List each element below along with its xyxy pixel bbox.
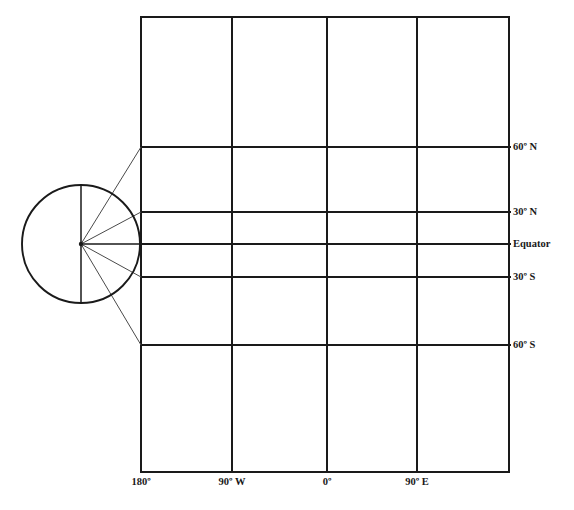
longitude-label-lon-0: 0º: [323, 476, 332, 487]
longitude-label-lon-180: 180º: [131, 476, 151, 487]
latitude-label-lat-0: Equator: [513, 238, 551, 249]
projection-rays-group: [81, 147, 141, 345]
projection-ray-60n: [81, 147, 141, 244]
longitude-label-lon-90w: 90º W: [219, 476, 246, 487]
latitude-label-lat-30n: 30º N: [513, 206, 538, 217]
latitude-label-lat-60n: 60º N: [513, 141, 538, 152]
latitude-label-lat-30s: 30º S: [513, 271, 536, 282]
globe-center-point: [79, 242, 83, 246]
latitude-label-lat-60s: 60º S: [513, 339, 536, 350]
projection-ray-30n: [81, 212, 141, 244]
mercator-projection-diagram: 60º N30º NEquator30º S60º S 180º90º W0º9…: [0, 0, 574, 510]
graticule: [141, 17, 511, 472]
latitude-lines-group: [141, 147, 511, 345]
longitude-labels-group: 180º90º W0º90º E: [131, 476, 428, 487]
longitude-label-lon-90e: 90º E: [405, 476, 429, 487]
latitude-labels-group: 60º N30º NEquator30º S60º S: [513, 141, 551, 350]
projection-figure-canvas: 60º N30º NEquator30º S60º S 180º90º W0º9…: [0, 0, 574, 510]
